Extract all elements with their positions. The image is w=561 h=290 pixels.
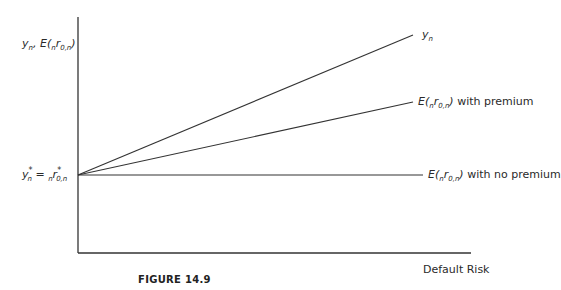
figure-caption: FIGURE 14.9 [138,274,211,285]
series-label-yn: yn [422,28,433,43]
series-label-with-premium: E(nr0,n) with premium [418,95,533,110]
y-axis-label: yn, E(nr0,n) [22,37,76,52]
line-yn [78,35,413,175]
origin-label: y*n = nr*0,n [22,166,67,183]
line-with-premium [78,102,413,175]
x-axis-label: Default Risk [423,263,490,276]
series-label-no-premium: E(nr0,n) with no premium [428,168,561,183]
